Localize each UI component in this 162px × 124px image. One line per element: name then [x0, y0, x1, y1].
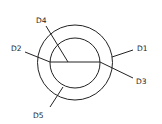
label-d2: D2	[11, 44, 22, 53]
concentric-circles-diagram: D4 D2 D1 D3 D5	[0, 0, 162, 124]
label-d1: D1	[137, 44, 148, 53]
leader-d3	[100, 62, 133, 78]
leader-d1	[112, 50, 133, 57]
label-d4: D4	[36, 16, 47, 25]
label-d5: D5	[33, 111, 44, 120]
leader-d4	[46, 26, 68, 62]
label-d3: D3	[136, 77, 147, 86]
